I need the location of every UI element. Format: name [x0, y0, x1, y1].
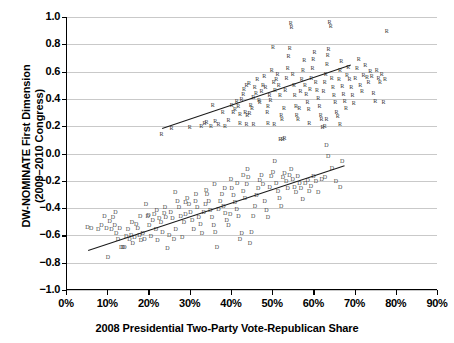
data-point-democrat: D: [276, 188, 280, 194]
data-point-republican: R: [221, 109, 225, 115]
data-point-republican: R: [266, 120, 270, 126]
data-point-democrat: D: [274, 180, 278, 186]
data-point-republican: R: [299, 88, 303, 94]
x-tick-mark: [107, 290, 108, 295]
data-point-democrat: D: [102, 213, 106, 219]
data-point-democrat: D: [230, 185, 234, 191]
data-point-democrat: D: [138, 213, 142, 219]
data-point-democrat: D: [155, 207, 159, 213]
data-point-republican: R: [211, 102, 215, 108]
data-point-democrat: D: [289, 166, 293, 172]
data-point-democrat: D: [228, 211, 232, 217]
x-tick-label: 50%: [252, 297, 292, 309]
data-point-democrat: D: [215, 244, 219, 250]
x-tick-mark: [66, 290, 67, 295]
data-point-republican: R: [252, 121, 256, 127]
data-point-democrat: D: [149, 233, 153, 239]
data-point-republican: R: [360, 88, 364, 94]
data-point-republican: R: [367, 79, 371, 85]
data-point-republican: R: [302, 57, 306, 63]
data-point-democrat: D: [261, 181, 265, 187]
y-tick-label: 0.4: [14, 92, 60, 104]
data-point-democrat: D: [165, 245, 169, 251]
data-point-democrat: D: [164, 214, 168, 220]
data-point-democrat: D: [104, 225, 108, 231]
data-point-republican: R: [363, 62, 367, 68]
x-tick-mark: [148, 290, 149, 295]
data-point-republican: R: [330, 75, 334, 81]
data-point-republican: R: [289, 24, 293, 30]
data-point-democrat: D: [117, 225, 121, 231]
data-point-democrat: D: [169, 209, 173, 215]
data-point-democrat: D: [263, 198, 267, 204]
data-point-democrat: D: [223, 185, 227, 191]
y-tick-label: −0.2: [14, 174, 60, 186]
data-point-democrat: D: [136, 225, 140, 231]
data-point-democrat: D: [131, 240, 135, 246]
data-point-democrat: D: [204, 187, 208, 193]
data-point-republican: R: [343, 98, 347, 104]
data-point-republican: R: [245, 121, 249, 127]
data-point-democrat: D: [307, 188, 311, 194]
data-point-republican: R: [271, 44, 275, 50]
data-point-democrat: D: [223, 210, 227, 216]
data-point-democrat: D: [147, 222, 151, 228]
x-tick-mark: [313, 290, 314, 295]
data-point-republican: R: [291, 71, 295, 77]
data-point-democrat: D: [309, 183, 313, 189]
data-point-republican: R: [344, 105, 348, 111]
x-tick-label: 20%: [128, 297, 168, 309]
data-point-democrat: D: [244, 181, 248, 187]
data-point-republican: R: [217, 121, 221, 127]
data-point-republican: R: [268, 97, 272, 103]
plot-area: 1.00.80.60.40.20.0−0.2−0.4−0.6−0.8−1.00%…: [66, 17, 437, 290]
data-point-republican: R: [258, 99, 262, 105]
x-tick-mark: [437, 290, 438, 295]
data-point-republican: R: [287, 53, 291, 59]
y-tick-mark: [62, 99, 67, 100]
data-point-republican: R: [323, 79, 327, 85]
data-point-democrat: D: [239, 230, 243, 236]
data-point-democrat: D: [155, 237, 159, 243]
x-tick-mark: [272, 290, 273, 295]
data-point-republican: R: [297, 105, 301, 111]
data-point-republican: R: [282, 135, 286, 141]
data-point-democrat: D: [175, 198, 179, 204]
y-tick-mark: [62, 154, 67, 155]
y-tick-label: 0.0: [14, 147, 60, 159]
y-tick-label: 0.2: [14, 119, 60, 131]
x-tick-mark: [355, 290, 356, 295]
data-point-republican: R: [348, 76, 352, 82]
data-point-democrat: D: [146, 212, 150, 218]
data-point-republican: R: [339, 58, 343, 64]
data-point-democrat: D: [236, 213, 240, 219]
data-point-republican: R: [315, 87, 319, 93]
y-tick-label: −0.4: [14, 201, 60, 213]
data-point-republican: R: [226, 117, 230, 123]
x-tick-label: 30%: [170, 297, 210, 309]
data-point-republican: R: [301, 67, 305, 73]
data-point-democrat: D: [314, 178, 318, 184]
data-point-republican: R: [307, 120, 311, 126]
data-point-republican: R: [350, 92, 354, 98]
data-point-republican: R: [277, 82, 281, 88]
data-point-republican: R: [314, 79, 318, 85]
y-tick-label: −0.8: [14, 256, 60, 268]
data-point-republican: R: [357, 56, 361, 62]
data-point-democrat: D: [279, 203, 283, 209]
data-point-republican: R: [323, 123, 327, 129]
y-tick-mark: [62, 181, 67, 182]
data-point-democrat: D: [256, 185, 260, 191]
data-point-democrat: D: [206, 198, 210, 204]
data-point-republican: R: [238, 111, 242, 117]
data-point-democrat: D: [226, 222, 230, 228]
data-point-republican: R: [296, 116, 300, 122]
data-point-republican: R: [247, 80, 251, 86]
gridline: [66, 235, 437, 236]
data-point-democrat: D: [195, 204, 199, 210]
data-point-republican: R: [316, 95, 320, 101]
data-point-republican: R: [358, 82, 362, 88]
data-point-republican: R: [341, 91, 345, 97]
data-point-democrat: D: [295, 173, 299, 179]
data-point-republican: R: [353, 75, 357, 81]
